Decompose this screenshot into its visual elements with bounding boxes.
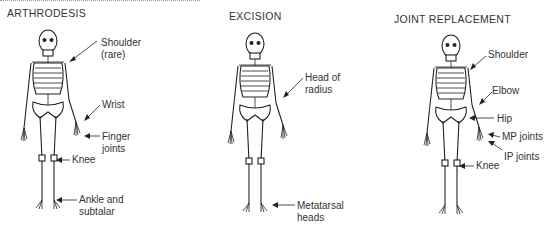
label-mp-joints: MP joints: [502, 131, 543, 143]
label-knee: Knee: [72, 154, 95, 166]
label-ankle-subtalar: Ankle and subtalar: [79, 194, 123, 218]
panel-arthrodesis: ARTHRODESIS: [0, 0, 183, 232]
label-metatarsal-heads: Metatarsal heads: [297, 200, 344, 224]
label-wrist: Wrist: [102, 99, 125, 111]
label-hip: Hip: [497, 113, 512, 125]
skeleton-figure: [183, 0, 366, 232]
label-ip-joints: IP joints: [504, 151, 539, 163]
label-head-of-radius: Head of radius: [305, 72, 340, 96]
label-finger-joints: Finger joints: [102, 131, 130, 155]
label-knee: Knee: [476, 160, 499, 172]
label-elbow: Elbow: [492, 85, 519, 97]
label-shoulder-rare: Shoulder (rare): [101, 37, 141, 61]
skeleton-figure: [366, 0, 549, 232]
panel-joint-replacement: JOINT REPLACEMENT Shoulder Elbow Hip MP …: [366, 0, 549, 232]
panel-excision: EXCISION Head of radius Metatarsal heads: [183, 0, 366, 232]
label-shoulder: Shoulder: [488, 49, 528, 61]
